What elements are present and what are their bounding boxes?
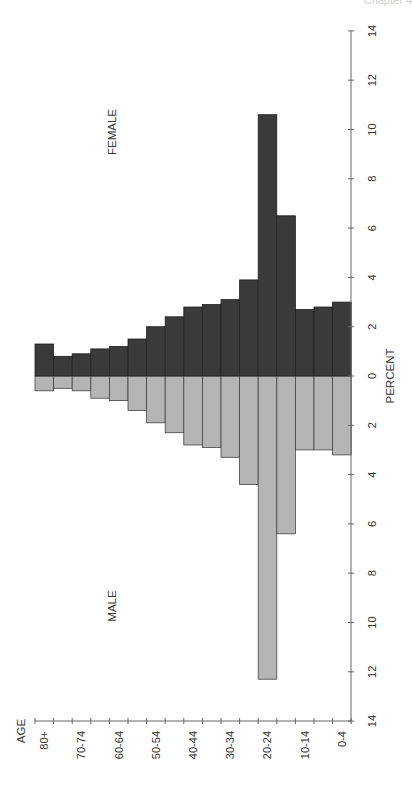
female-bar-25-29 (240, 280, 259, 376)
percent-axis-title: PERCENT (384, 349, 396, 404)
age-axis: 80+70-7460-6450-5440-4430-3420-2410-140-… (35, 718, 351, 759)
male-bar-15-19 (277, 376, 296, 534)
percent-tick-label: 8 (366, 176, 378, 182)
female-bar-50-54 (147, 327, 166, 376)
male-bar-80+ (35, 376, 54, 391)
male-bar-35-39 (202, 376, 221, 448)
male-bar-20-24 (258, 376, 277, 679)
female-bar-5-9 (314, 307, 333, 376)
male-bar-40-44 (184, 376, 203, 445)
female-bar-80+ (35, 344, 54, 376)
female-bar-55-59 (128, 339, 147, 376)
age-tick-label: 50-54 (150, 731, 162, 759)
female-bar-60-64 (109, 346, 128, 376)
age-tick-label: 60-64 (113, 731, 125, 759)
female-bar-70-74 (72, 354, 91, 376)
age-tick-label: 70-74 (75, 731, 87, 759)
male-bar-30-34 (221, 376, 240, 457)
female-bar-40-44 (184, 307, 203, 376)
percent-tick-label: 2 (366, 324, 378, 330)
female-bar-20-24 (258, 115, 277, 376)
percent-tick-label: 8 (366, 570, 378, 576)
percent-tick-label: 14 (366, 25, 378, 37)
female-bar-15-19 (277, 216, 296, 376)
male-bar-70-74 (72, 376, 91, 391)
percent-tick-label: 12 (366, 74, 378, 86)
percent-tick-label: 2 (366, 422, 378, 428)
percent-tick-label: 14 (366, 715, 378, 727)
percent-tick-label: 6 (366, 521, 378, 527)
male-bar-5-9 (314, 376, 333, 450)
population-pyramid-chart: 141210864202468101214 80+70-7460-6450-54… (0, 0, 412, 796)
age-tick-label: 10-14 (299, 731, 311, 759)
male-bar-10-14 (295, 376, 314, 450)
female-bar-65-69 (91, 349, 110, 376)
male-bar-75-79 (54, 376, 73, 388)
percent-tick-label: 4 (366, 472, 378, 478)
age-tick-label: 0-4 (336, 731, 348, 747)
percent-tick-label: 0 (366, 373, 378, 379)
percent-axis: 141210864202468101214 (348, 25, 378, 727)
female-bar-30-34 (221, 300, 240, 376)
female-bar-75-79 (54, 356, 73, 376)
male-bar-55-59 (128, 376, 147, 411)
percent-tick-label: 12 (366, 666, 378, 678)
female-bar-0-4 (333, 302, 352, 376)
percent-tick-label: 4 (366, 274, 378, 280)
age-axis-title: AGE (15, 719, 27, 744)
age-tick-label: 30-34 (224, 731, 236, 759)
female-bar-35-39 (202, 305, 221, 377)
percent-tick-label: 10 (366, 616, 378, 628)
female-bar-45-49 (165, 317, 184, 376)
male-bar-25-29 (240, 376, 259, 485)
percent-tick-label: 6 (366, 225, 378, 231)
female-bar-10-14 (295, 309, 314, 376)
male-bar-65-69 (91, 376, 110, 398)
age-tick-label: 40-44 (187, 731, 199, 759)
male-series-label: MALE (106, 590, 118, 622)
male-bar-0-4 (333, 376, 352, 455)
percent-tick-label: 10 (366, 123, 378, 135)
age-tick-label: 20-24 (261, 731, 273, 759)
male-bar-60-64 (109, 376, 128, 401)
age-tick-label: 80+ (38, 731, 50, 750)
male-bar-45-49 (165, 376, 184, 433)
male-bar-50-54 (147, 376, 166, 423)
bars-group (35, 115, 351, 680)
female-series-label: FEMALE (106, 109, 118, 155)
